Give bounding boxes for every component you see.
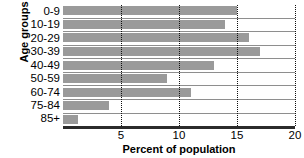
bar <box>63 20 225 29</box>
category-label: 75-84 <box>14 99 62 112</box>
gridline <box>295 5 296 126</box>
x-axis-title: Percent of population <box>63 143 295 155</box>
bar-row <box>63 19 295 33</box>
category-label: 30-39 <box>14 45 62 58</box>
category-label: 85+ <box>14 113 62 126</box>
bar <box>63 101 109 110</box>
bar <box>63 61 214 70</box>
bar-row <box>63 86 295 100</box>
bar-row <box>63 100 295 114</box>
category-label: 50-59 <box>14 72 62 85</box>
bar-row <box>63 32 295 46</box>
bar <box>63 88 191 97</box>
x-axis-line <box>63 126 295 129</box>
x-tick-labels: 5101520 <box>63 130 295 144</box>
category-label: 40-49 <box>14 59 62 72</box>
category-label: 0-9 <box>14 5 62 18</box>
category-label-column: 0-9 10-19 20-29 30-39 40-49 50-59 60-74 … <box>14 5 62 126</box>
bar-row <box>63 59 295 73</box>
bar-row <box>63 5 295 19</box>
plot-area <box>63 5 295 126</box>
category-label: 10-19 <box>14 18 62 31</box>
bar-rows <box>63 5 295 126</box>
x-tick-label: 15 <box>231 130 244 142</box>
bar-chart: Age groups 0-9 10-19 20-29 30-39 40-49 5… <box>0 0 304 158</box>
category-label: 20-29 <box>14 32 62 45</box>
x-tick-label: 20 <box>289 130 302 142</box>
category-label: 60-74 <box>14 86 62 99</box>
x-tick-label: 10 <box>173 130 186 142</box>
bar-row <box>63 114 295 127</box>
x-tick-label: 5 <box>118 130 124 142</box>
bar <box>63 74 167 83</box>
bar <box>63 33 249 42</box>
bar-row <box>63 46 295 60</box>
bar <box>63 115 78 124</box>
bar <box>63 6 237 15</box>
bar-row <box>63 73 295 87</box>
bar <box>63 47 260 56</box>
